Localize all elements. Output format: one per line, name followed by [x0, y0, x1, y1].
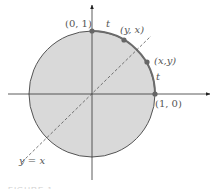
point-y-x [121, 37, 126, 42]
point-x-y [144, 59, 149, 64]
label-arc-t-right: t [156, 71, 161, 82]
label-0-1: (0, 1) [65, 18, 92, 29]
label-y-x: (y, x) [120, 24, 144, 35]
label-x-y: (x,y) [154, 55, 176, 66]
label-1-0: (1, 0) [155, 98, 182, 109]
figure-caption: FIGURE 1 [8, 185, 53, 189]
label-arc-t-top: t [106, 18, 111, 29]
label-line-y-equals-x: y = x [18, 155, 45, 166]
unit-circle-diagram: (0, 1) t (y, x) (x,y) t (1, 0) y = x FIG… [0, 0, 218, 189]
point-0-1 [89, 28, 94, 33]
point-1-0 [152, 91, 157, 96]
